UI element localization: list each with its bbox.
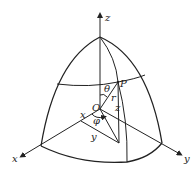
z-axis-label: z (104, 12, 111, 23)
y-axis (100, 109, 180, 154)
theta-label: θ (104, 83, 110, 94)
sphere-octant-outline (41, 37, 162, 162)
x-axis-label: x (12, 153, 18, 164)
x-component-label: x (80, 109, 86, 120)
y-axis-label: y (183, 153, 190, 164)
z-component-label: z (114, 102, 121, 113)
latitude-circle (57, 75, 145, 86)
origin-label: O (92, 102, 100, 113)
point-p-marker (117, 81, 119, 83)
y-component-label: y (90, 131, 97, 142)
theta-arc (100, 94, 107, 97)
x-axis (22, 109, 100, 156)
phi-label: φ (93, 115, 100, 126)
spherical-coordinates-diagram: z x y P O θ φ r z x y (0, 0, 196, 172)
point-p-label: P (119, 78, 127, 89)
